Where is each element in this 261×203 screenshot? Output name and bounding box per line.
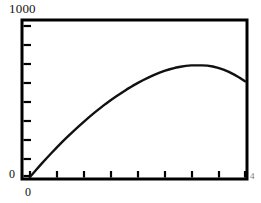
chart-figure: 1000 0 0 4 (0, 0, 261, 203)
x-axis-max-label: 4 (250, 172, 255, 181)
plot-frame (22, 20, 247, 179)
plot-area (0, 0, 261, 203)
y-axis-min-label: 0 (9, 168, 15, 180)
y-axis-max-label: 1000 (9, 2, 36, 15)
x-axis-origin-label: 0 (25, 186, 31, 198)
